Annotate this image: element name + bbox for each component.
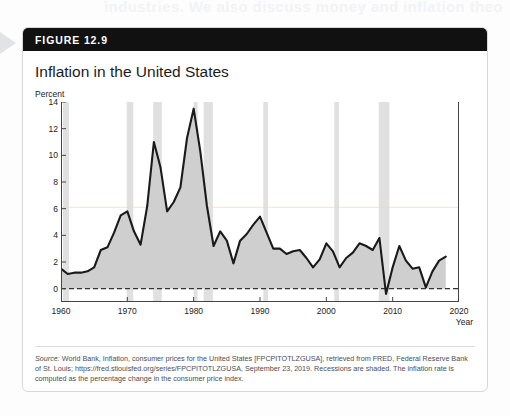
source-divider <box>35 346 475 347</box>
y-tick-label: 8 <box>36 177 58 187</box>
y-tick-label: 6 <box>36 204 58 214</box>
x-tick-label: 1990 <box>243 306 277 316</box>
source-label: Source: <box>35 354 60 363</box>
inflation-line-chart <box>61 102 459 302</box>
y-tick-label: 2 <box>36 257 58 267</box>
figure-number-label: FIGURE 12.9 <box>35 34 108 46</box>
chart-container: Percent 02468101214 19601970198019902000… <box>35 89 475 327</box>
figure-card: FIGURE 12.9 Inflation in the United Stat… <box>22 27 488 392</box>
y-tick-label: 14 <box>36 97 58 107</box>
x-axis-title: Year <box>456 317 473 327</box>
figure-header-bar: FIGURE 12.9 <box>23 28 487 51</box>
x-tick-label: 2020 <box>442 306 476 316</box>
y-tick-label: 4 <box>36 230 58 240</box>
x-tick-label: 1970 <box>110 306 144 316</box>
y-tick-label: 10 <box>36 150 58 160</box>
x-tick-label: 2000 <box>309 306 343 316</box>
page-bleed-text: industries. We also discuss money and in… <box>104 0 504 16</box>
source-note: Source: World Bank, Inflation, consumer … <box>35 354 473 385</box>
x-tick-label: 2010 <box>376 306 410 316</box>
page-root: industries. We also discuss money and in… <box>0 0 510 416</box>
y-tick-label: 0 <box>36 284 58 294</box>
left-edge-arrow-icon <box>0 32 16 54</box>
y-tick-label: 12 <box>36 124 58 134</box>
plot-area <box>61 102 459 302</box>
source-body: World Bank, Inflation, consumer prices f… <box>35 354 468 383</box>
x-tick-label: 1980 <box>177 306 211 316</box>
x-tick-label: 1960 <box>44 306 78 316</box>
figure-title: Inflation in the United States <box>23 51 487 81</box>
